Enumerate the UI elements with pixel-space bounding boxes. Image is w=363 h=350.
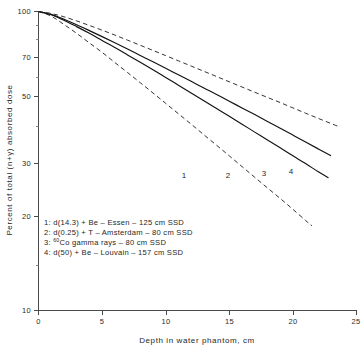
x-axis-title: Depth in water phantom, cm: [139, 336, 255, 345]
y-axis-ticks: [34, 12, 39, 311]
curve-3: [39, 12, 332, 156]
depth-dose-chart: 100 70 50 30 20 10 0 5 10 15 20 25 Depth…: [0, 0, 363, 350]
x-tick-label-5: 5: [100, 317, 104, 326]
x-tick-label-10: 10: [162, 317, 171, 326]
y-tick-label-10: 10: [22, 306, 31, 315]
legend-entry-3: 3: 60Co gamma rays – 80 cm SSD: [44, 237, 166, 247]
legend-entry-4: 4: d(50) + Be – Louvain – 157 cm SSD: [44, 248, 183, 257]
x-tick-label-20: 20: [289, 317, 298, 326]
legend-entry-1: 1: d(14.3) + Be – Essen – 125 cm SSD: [44, 218, 184, 227]
plot-area: 100 70 50 30 20 10 0 5 10 15 20 25 Depth…: [0, 0, 363, 350]
legend-entry-3-rest: Co gamma rays – 80 cm SSD: [59, 238, 166, 247]
y-tick-label-50: 50: [22, 92, 31, 101]
x-tick-label-25: 25: [352, 317, 361, 326]
y-axis-title: Percent of total (n+γ) absorbed dose: [5, 84, 14, 235]
curve-1: [39, 12, 312, 226]
legend-entry-3-prefix: 3:: [44, 238, 53, 247]
legend: 1: d(14.3) + Be – Essen – 125 cm SSD 2: …: [44, 218, 193, 257]
x-tick-label-15: 15: [225, 317, 234, 326]
y-tick-label-70: 70: [22, 53, 31, 62]
y-tick-label-20: 20: [22, 212, 31, 221]
curve-2: [39, 12, 329, 178]
x-tick-label-0: 0: [36, 317, 40, 326]
y-tick-label-100: 100: [18, 7, 31, 16]
x-axis-ticks: [39, 311, 357, 316]
curve-label-3: 3: [262, 169, 267, 178]
curve-label-1: 1: [182, 171, 187, 180]
curve-label-4: 4: [289, 167, 294, 176]
curve-label-2: 2: [226, 171, 231, 180]
data-curves: [39, 12, 339, 226]
legend-entry-2: 2: d(0.25) + T – Amsterdam – 80 cm SSD: [44, 228, 193, 237]
curve-4: [39, 12, 339, 127]
y-tick-label-30: 30: [22, 159, 31, 168]
